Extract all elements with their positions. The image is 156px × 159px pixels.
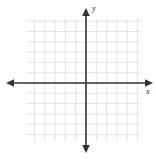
grid-lines	[27, 19, 140, 141]
x-axis-label: x	[145, 87, 150, 96]
x-axis-right-arrowhead	[145, 79, 153, 87]
y-axis-up-arrowhead	[82, 8, 90, 16]
y-axis-label: y	[91, 4, 96, 13]
axes-group	[6, 8, 153, 153]
coordinate-plane-figure: y x	[0, 0, 156, 159]
coordinate-plane-svg: y x	[0, 0, 156, 159]
y-axis-down-arrowhead	[82, 145, 90, 153]
x-axis-left-arrowhead	[6, 79, 14, 87]
